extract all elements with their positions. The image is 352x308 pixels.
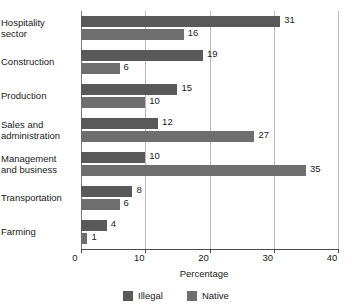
bar-row: 19	[81, 50, 338, 61]
bar-row: 27	[81, 131, 338, 142]
bar-row: 31	[81, 16, 338, 27]
bar-value-label: 27	[258, 129, 269, 140]
x-tick-label: 30	[262, 252, 273, 264]
x-tick-20	[210, 249, 211, 253]
bar-native	[81, 165, 306, 176]
bar-row: 1	[81, 233, 338, 244]
x-tick-40	[338, 249, 339, 253]
x-axis-title: Percentage	[0, 268, 352, 279]
category-label: Production	[1, 90, 77, 102]
bar-native	[81, 63, 120, 74]
bar-illegal	[81, 118, 158, 129]
bar-group: 86	[81, 181, 338, 215]
bar-value-label: 12	[162, 116, 173, 127]
bar-group: 1227	[81, 113, 338, 147]
bar-row: 12	[81, 118, 338, 129]
legend-swatch-icon	[187, 291, 197, 301]
legend-label: Native	[202, 291, 229, 301]
bar-row: 15	[81, 84, 338, 95]
bar-value-label: 8	[136, 184, 141, 195]
bar-row: 10	[81, 97, 338, 108]
bar-value-label: 6	[124, 61, 129, 72]
bar-illegal	[81, 220, 107, 231]
bar-native	[81, 131, 254, 142]
legend-swatch-icon	[123, 291, 133, 301]
category-label: Transportation	[1, 192, 77, 204]
bar-value-label: 10	[149, 150, 160, 161]
bar-illegal	[81, 50, 203, 61]
category-label-line: administration	[1, 130, 77, 142]
category-label: Farming	[1, 226, 77, 238]
category-label-line: Hospitality	[1, 17, 77, 29]
bar-native	[81, 97, 145, 108]
bar-illegal	[81, 84, 177, 95]
gridline-40	[338, 11, 339, 249]
x-tick-label: 0	[72, 252, 77, 264]
bar-native	[81, 199, 120, 210]
x-tick-0	[81, 249, 82, 253]
bar-row: 6	[81, 63, 338, 74]
category-label: Construction	[1, 56, 77, 68]
bar-row: 10	[81, 152, 338, 163]
x-tick-label: 10	[134, 252, 145, 264]
bar-value-label: 4	[111, 218, 116, 229]
bar-value-label: 16	[188, 27, 199, 38]
category-label-line: sector	[1, 28, 77, 40]
bar-illegal	[81, 16, 280, 27]
plot-area: 31161961510122710358641	[81, 11, 338, 249]
bar-value-label: 35	[310, 163, 321, 174]
legend-label: Illegal	[138, 291, 163, 301]
bar-value-label: 15	[181, 82, 192, 93]
category-label-line: Construction	[1, 56, 77, 68]
x-tick-30	[274, 249, 275, 253]
bar-value-label: 31	[284, 14, 295, 25]
bar-group: 196	[81, 45, 338, 79]
category-axis-labels: HospitalitysectorConstructionProductionS…	[5, 11, 77, 249]
bar-row: 8	[81, 186, 338, 197]
bar-group: 3116	[81, 11, 338, 45]
bar-value-label: 19	[207, 48, 218, 59]
category-label-line: Sales and	[1, 119, 77, 131]
bar-row: 35	[81, 165, 338, 176]
bar-group: 1510	[81, 79, 338, 113]
category-label-line: and business	[1, 164, 77, 176]
legend-item: Illegal	[123, 291, 163, 301]
x-tick-10	[145, 249, 146, 253]
bar-value-label: 1	[91, 231, 96, 242]
bar-illegal	[81, 152, 145, 163]
bar-group: 1035	[81, 147, 338, 181]
category-label-line: Farming	[1, 226, 77, 238]
x-axis-title-text: Percentage	[124, 268, 229, 279]
category-label-line: Transportation	[1, 192, 77, 204]
legend-item: Native	[187, 291, 229, 301]
bar-row: 4	[81, 220, 338, 231]
bar-chart: HospitalitysectorConstructionProductionS…	[0, 0, 352, 308]
x-tick-label: 40	[327, 252, 338, 264]
category-label: Hospitalitysector	[1, 17, 77, 40]
category-label: Managementand business	[1, 153, 77, 176]
bar-row: 6	[81, 199, 338, 210]
category-label: Sales andadministration	[1, 119, 77, 142]
bar-value-label: 10	[149, 95, 160, 106]
category-label-line: Management	[1, 153, 77, 165]
bar-illegal	[81, 186, 132, 197]
x-tick-label: 20	[198, 252, 209, 264]
bar-value-label: 6	[124, 197, 129, 208]
bar-row: 16	[81, 29, 338, 40]
bar-native	[81, 29, 184, 40]
bar-group: 41	[81, 215, 338, 249]
category-label-line: Production	[1, 90, 77, 102]
chart-legend: IllegalNative	[0, 291, 352, 301]
bar-native	[81, 233, 87, 244]
